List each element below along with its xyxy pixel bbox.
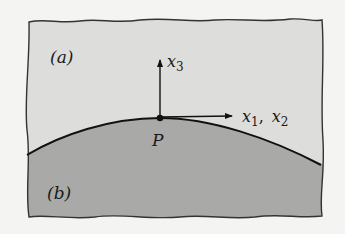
point-p-dot bbox=[157, 115, 164, 122]
region-b-label: (b) bbox=[47, 183, 71, 203]
region-a-label: (a) bbox=[50, 47, 73, 67]
interface-diagram: (a) (b) P x3 x1,x2 bbox=[0, 0, 345, 234]
point-p-label: P bbox=[151, 130, 164, 150]
x1-axis-arrow bbox=[160, 116, 232, 117]
